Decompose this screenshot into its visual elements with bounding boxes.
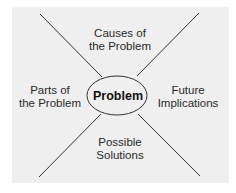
center-problem-label: Problem bbox=[88, 89, 148, 103]
quadrant-top-line2: the Problem bbox=[88, 40, 152, 53]
quadrant-right-label: Future Implications bbox=[153, 84, 223, 110]
quadrant-right-line2: Implications bbox=[153, 97, 223, 110]
quadrant-left-line1: Parts of bbox=[17, 84, 83, 97]
quadrant-top-line1: Causes of bbox=[88, 27, 152, 40]
quadrant-bottom-label: Possible Solutions bbox=[92, 136, 148, 162]
quadrant-bottom-line1: Possible bbox=[92, 136, 148, 149]
quadrant-left-line2: the Problem bbox=[17, 97, 83, 110]
quadrant-bottom-line2: Solutions bbox=[92, 149, 148, 162]
quadrant-top-label: Causes of the Problem bbox=[88, 27, 152, 53]
quadrant-right-line1: Future bbox=[153, 84, 223, 97]
quadrant-left-label: Parts of the Problem bbox=[17, 84, 83, 110]
